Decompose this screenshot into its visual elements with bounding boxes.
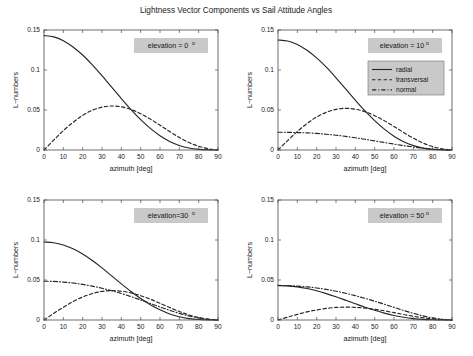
x-tick-label: 30 bbox=[332, 323, 340, 330]
elevation-annotation-degree-symbol: o bbox=[192, 210, 195, 216]
x-tick-label: 10 bbox=[294, 323, 302, 330]
x-axis-title: azimuth [deg] bbox=[109, 334, 152, 343]
y-tick-label: 0.15 bbox=[27, 26, 40, 33]
x-tick-label: 10 bbox=[60, 323, 68, 330]
y-tick-label: 0.05 bbox=[261, 276, 274, 283]
x-tick-label: 30 bbox=[98, 323, 106, 330]
x-tick-label: 50 bbox=[137, 153, 145, 160]
x-tick-label: 40 bbox=[352, 323, 360, 330]
x-tick-label: 0 bbox=[276, 323, 280, 330]
x-tick-label: 80 bbox=[195, 153, 203, 160]
x-axis-title: azimuth [deg] bbox=[109, 164, 152, 173]
x-tick-label: 20 bbox=[79, 153, 87, 160]
x-tick-label: 70 bbox=[410, 323, 418, 330]
x-tick-label: 20 bbox=[313, 153, 321, 160]
y-tick-label: 0 bbox=[270, 146, 274, 153]
x-axis-title: azimuth [deg] bbox=[343, 334, 386, 343]
x-tick-label: 60 bbox=[156, 153, 164, 160]
y-tick-label: 0.15 bbox=[27, 196, 40, 203]
elevation-annotation-label: elevation = 10 bbox=[380, 42, 424, 50]
x-tick-label: 50 bbox=[371, 153, 379, 160]
x-tick-label: 0 bbox=[42, 323, 46, 330]
x-tick-label: 20 bbox=[313, 323, 321, 330]
x-tick-label: 30 bbox=[98, 153, 106, 160]
elevation-annotation-degree-symbol: o bbox=[426, 40, 429, 46]
x-tick-label: 20 bbox=[79, 323, 87, 330]
y-tick-label: 0 bbox=[36, 316, 40, 323]
x-tick-label: 0 bbox=[42, 153, 46, 160]
x-tick-label: 80 bbox=[429, 153, 437, 160]
y-axis-title: L−numbers bbox=[245, 242, 254, 279]
x-tick-label: 50 bbox=[137, 323, 145, 330]
x-tick-label: 10 bbox=[60, 153, 68, 160]
x-tick-label: 10 bbox=[294, 153, 302, 160]
legend-label-radial: radial bbox=[396, 66, 413, 73]
legend-label-transversal: transversal bbox=[396, 76, 429, 83]
elevation-annotation-label: elevation = 50 bbox=[380, 212, 424, 220]
x-tick-label: 0 bbox=[276, 153, 280, 160]
elevation-annotation-degree-symbol: o bbox=[192, 40, 195, 46]
x-tick-label: 60 bbox=[156, 323, 164, 330]
y-tick-label: 0 bbox=[36, 146, 40, 153]
x-tick-label: 40 bbox=[118, 153, 126, 160]
y-tick-label: 0.05 bbox=[27, 276, 40, 283]
x-tick-label: 90 bbox=[214, 323, 222, 330]
x-tick-label: 60 bbox=[390, 153, 398, 160]
x-tick-label: 70 bbox=[176, 323, 184, 330]
y-tick-label: 0.1 bbox=[31, 66, 40, 73]
x-tick-label: 90 bbox=[214, 153, 222, 160]
y-axis-title: L−numbers bbox=[11, 72, 20, 109]
x-tick-label: 50 bbox=[371, 323, 379, 330]
y-tick-label: 0.1 bbox=[265, 236, 274, 243]
legend-label-normal: normal bbox=[396, 86, 417, 93]
x-tick-label: 70 bbox=[410, 153, 418, 160]
y-tick-label: 0 bbox=[270, 316, 274, 323]
x-tick-label: 40 bbox=[118, 323, 126, 330]
y-axis-title: L−numbers bbox=[11, 242, 20, 279]
y-tick-label: 0.05 bbox=[27, 106, 40, 113]
x-tick-label: 30 bbox=[332, 153, 340, 160]
x-tick-label: 70 bbox=[176, 153, 184, 160]
x-tick-label: 80 bbox=[195, 323, 203, 330]
x-axis-title: azimuth [deg] bbox=[343, 164, 386, 173]
x-tick-label: 40 bbox=[352, 153, 360, 160]
x-tick-label: 60 bbox=[390, 323, 398, 330]
y-axis-title: L−numbers bbox=[245, 72, 254, 109]
y-tick-label: 0.1 bbox=[265, 66, 274, 73]
x-tick-label: 90 bbox=[448, 153, 456, 160]
elevation-annotation-label: elevation = 0 bbox=[148, 42, 188, 50]
x-tick-label: 80 bbox=[429, 323, 437, 330]
y-tick-label: 0.1 bbox=[31, 236, 40, 243]
y-tick-label: 0.15 bbox=[261, 196, 274, 203]
x-tick-label: 90 bbox=[448, 323, 456, 330]
elevation-annotation-label: elevation=30 bbox=[148, 212, 188, 220]
figure-canvas: Lightness Vector Components vs Sail Atti… bbox=[0, 0, 473, 356]
y-tick-label: 0.05 bbox=[261, 106, 274, 113]
elevation-annotation-degree-symbol: o bbox=[426, 210, 429, 216]
figure-title: Lightness Vector Components vs Sail Atti… bbox=[140, 6, 332, 15]
y-tick-label: 0.15 bbox=[261, 26, 274, 33]
